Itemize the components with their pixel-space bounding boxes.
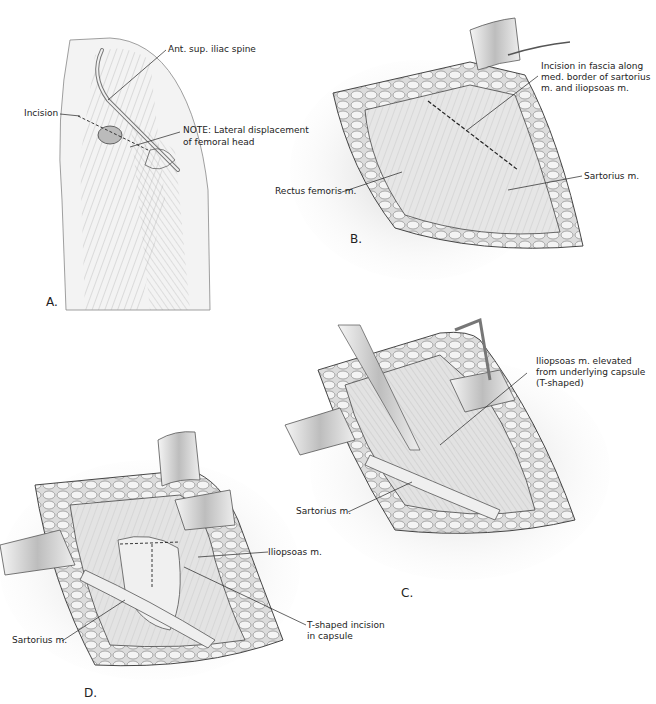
label-iliopsoas-c-line2: from underlying capsule (536, 367, 645, 378)
label-ant-sup-iliac-spine: Ant. sup. iliac spine (168, 44, 256, 55)
label-fascia-line3: m. and iliopsoas m. (541, 83, 629, 94)
panel-b-drawing (290, 18, 583, 280)
label-iliopsoas-d: Iliopsoas m. (268, 547, 322, 558)
label-fascia-line1: Incision in fascia along (541, 61, 643, 72)
label-rectus-femoris: Rectus femoris m. (275, 186, 356, 197)
label-iliopsoas-c-line3: (T-shaped) (536, 378, 584, 389)
label-iliopsoas-c-line1: Iliopsoas m. elevated (536, 356, 632, 367)
label-note-line1: NOTE: Lateral displacement (183, 125, 309, 136)
label-sartorius-d: Sartorius m. (12, 635, 67, 646)
panel-letter-a: A. (46, 295, 58, 309)
illustration-artwork (0, 0, 656, 704)
label-note-line2: of femoral head (183, 137, 255, 148)
label-t-incision-line2: in capsule (307, 631, 353, 642)
panel-letter-c: C. (401, 586, 413, 600)
label-incision: Incision (24, 108, 58, 119)
panel-a-drawing (60, 38, 210, 310)
label-fascia-line2: med. border of sartorius (541, 72, 650, 83)
surgical-illustration: Ant. sup. iliac spine Incision NOTE: Lat… (0, 0, 656, 704)
panel-letter-b: B. (350, 232, 362, 246)
label-sartorius-b: Sartorius m. (584, 171, 639, 182)
panel-letter-d: D. (84, 686, 97, 700)
label-t-incision-line1: T-shaped incision (307, 620, 385, 631)
label-sartorius-c: Sartorius m. (296, 506, 351, 517)
